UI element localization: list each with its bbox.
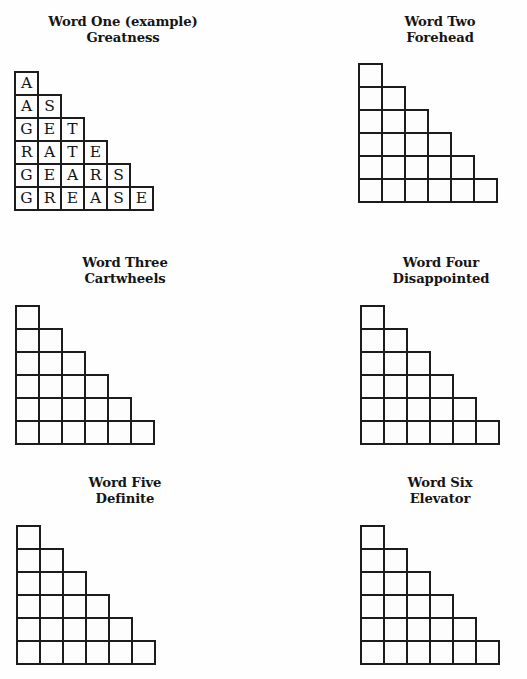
pyramid-cell[interactable]: S: [106, 186, 131, 211]
pyramid-cell[interactable]: G: [14, 163, 39, 188]
pyramid-cell[interactable]: [360, 617, 385, 642]
pyramid-cell[interactable]: [475, 640, 500, 665]
pyramid-cell[interactable]: [15, 351, 40, 376]
pyramid-cell[interactable]: [131, 640, 156, 665]
pyramid-cell[interactable]: [62, 617, 87, 642]
pyramid-cell[interactable]: [358, 132, 383, 157]
pyramid-cell[interactable]: G: [14, 186, 39, 211]
pyramid-cell[interactable]: [452, 397, 477, 422]
pyramid-cell[interactable]: [429, 594, 454, 619]
pyramid-cell[interactable]: [429, 397, 454, 422]
pyramid-cell[interactable]: [360, 374, 385, 399]
pyramid-cell[interactable]: [404, 178, 429, 203]
pyramid-cell[interactable]: [360, 351, 385, 376]
pyramid-cell[interactable]: [360, 548, 385, 573]
pyramid-cell[interactable]: [38, 374, 63, 399]
pyramid-cell[interactable]: [39, 548, 64, 573]
pyramid-cell[interactable]: [381, 109, 406, 134]
pyramid-cell[interactable]: [383, 617, 408, 642]
pyramid-cell[interactable]: [406, 420, 431, 445]
pyramid-cell[interactable]: [406, 397, 431, 422]
pyramid-cell[interactable]: E: [60, 186, 85, 211]
pyramid-cell[interactable]: [16, 640, 41, 665]
pyramid-cell[interactable]: [108, 640, 133, 665]
pyramid-cell[interactable]: [61, 420, 86, 445]
pyramid-cell[interactable]: [383, 397, 408, 422]
pyramid-cell[interactable]: A: [14, 71, 39, 96]
pyramid-cell[interactable]: [39, 640, 64, 665]
pyramid-cell[interactable]: E: [37, 163, 62, 188]
pyramid-cell[interactable]: R: [37, 186, 62, 211]
pyramid-cell[interactable]: [383, 594, 408, 619]
pyramid-cell[interactable]: [62, 594, 87, 619]
pyramid-cell[interactable]: [381, 132, 406, 157]
pyramid-cell[interactable]: A: [83, 186, 108, 211]
pyramid-cell[interactable]: [452, 640, 477, 665]
pyramid-cell[interactable]: [84, 374, 109, 399]
pyramid-cell[interactable]: [429, 640, 454, 665]
pyramid-cell[interactable]: [450, 178, 475, 203]
pyramid-cell[interactable]: [360, 397, 385, 422]
pyramid-cell[interactable]: [15, 420, 40, 445]
pyramid-cell[interactable]: [38, 328, 63, 353]
pyramid-cell[interactable]: [406, 617, 431, 642]
pyramid-cell[interactable]: [39, 571, 64, 596]
pyramid-cell[interactable]: [383, 571, 408, 596]
pyramid-cell[interactable]: R: [14, 140, 39, 165]
pyramid-cell[interactable]: [473, 178, 498, 203]
pyramid-cell[interactable]: [404, 155, 429, 180]
pyramid-cell[interactable]: [381, 178, 406, 203]
pyramid-cell[interactable]: [16, 525, 41, 550]
pyramid-cell[interactable]: [360, 525, 385, 550]
pyramid-cell[interactable]: [61, 397, 86, 422]
pyramid-cell[interactable]: [130, 420, 155, 445]
pyramid-cell[interactable]: [360, 571, 385, 596]
pyramid-cell[interactable]: [15, 397, 40, 422]
pyramid-cell[interactable]: [383, 374, 408, 399]
pyramid-cell[interactable]: [62, 571, 87, 596]
pyramid-cell[interactable]: [406, 640, 431, 665]
pyramid-cell[interactable]: [15, 374, 40, 399]
pyramid-cell[interactable]: [404, 109, 429, 134]
pyramid-cell[interactable]: [84, 397, 109, 422]
pyramid-cell[interactable]: S: [106, 163, 131, 188]
pyramid-cell[interactable]: [15, 305, 40, 330]
pyramid-cell[interactable]: [39, 617, 64, 642]
pyramid-cell[interactable]: [62, 640, 87, 665]
pyramid-cell[interactable]: [358, 155, 383, 180]
pyramid-cell[interactable]: [61, 374, 86, 399]
pyramid-cell[interactable]: S: [37, 94, 62, 119]
pyramid-cell[interactable]: [406, 571, 431, 596]
pyramid-cell[interactable]: [427, 132, 452, 157]
pyramid-cell[interactable]: [383, 548, 408, 573]
pyramid-cell[interactable]: [383, 640, 408, 665]
pyramid-cell[interactable]: T: [60, 140, 85, 165]
pyramid-cell[interactable]: [429, 374, 454, 399]
pyramid-cell[interactable]: [427, 155, 452, 180]
pyramid-cell[interactable]: [16, 571, 41, 596]
pyramid-cell[interactable]: [16, 548, 41, 573]
pyramid-cell[interactable]: [360, 328, 385, 353]
pyramid-cell[interactable]: [406, 374, 431, 399]
pyramid-cell[interactable]: [107, 420, 132, 445]
pyramid-cell[interactable]: [475, 420, 500, 445]
pyramid-cell[interactable]: [38, 397, 63, 422]
pyramid-cell[interactable]: [108, 617, 133, 642]
pyramid-cell[interactable]: [358, 178, 383, 203]
pyramid-cell[interactable]: [358, 109, 383, 134]
pyramid-cell[interactable]: A: [14, 94, 39, 119]
pyramid-cell[interactable]: [383, 351, 408, 376]
pyramid-cell[interactable]: [84, 420, 109, 445]
pyramid-cell[interactable]: E: [129, 186, 154, 211]
pyramid-cell[interactable]: [360, 640, 385, 665]
pyramid-cell[interactable]: R: [83, 163, 108, 188]
pyramid-cell[interactable]: [406, 351, 431, 376]
pyramid-cell[interactable]: A: [37, 140, 62, 165]
pyramid-cell[interactable]: [38, 351, 63, 376]
pyramid-cell[interactable]: [358, 63, 383, 88]
pyramid-cell[interactable]: [107, 397, 132, 422]
pyramid-cell[interactable]: [452, 420, 477, 445]
pyramid-cell[interactable]: [358, 86, 383, 111]
pyramid-cell[interactable]: [427, 178, 452, 203]
pyramid-cell[interactable]: [383, 420, 408, 445]
